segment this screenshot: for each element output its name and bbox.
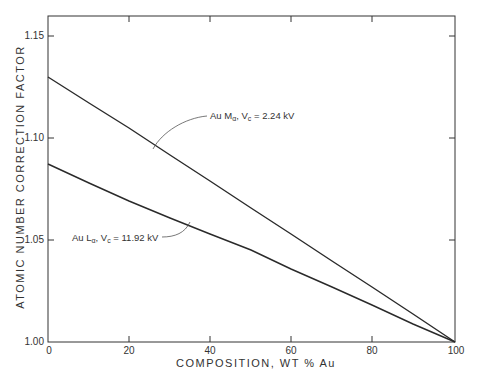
x-ticks xyxy=(129,16,372,342)
y-tick-label: 1.10 xyxy=(25,132,45,143)
annotation-leader-m xyxy=(153,116,207,149)
y-tick-label: 1.05 xyxy=(25,234,45,245)
x-tick-label: 0 xyxy=(46,345,52,356)
annotation-au-m-alpha: Au Mα, Vc = 2.24 kV xyxy=(210,110,295,122)
plot-frame xyxy=(48,16,455,342)
chart-canvas: 1.00 1.05 1.10 1.15 0 20 40 60 80 100 CO… xyxy=(0,0,477,377)
y-ticks xyxy=(48,36,455,240)
annotation-au-l-alpha: Au Lα, Vc = 11.92 kV xyxy=(72,232,159,244)
x-tick-label: 20 xyxy=(123,345,135,356)
y-axis-title: ATOMIC NUMBER CORRECTION FACTOR xyxy=(14,45,26,308)
x-tick-label: 100 xyxy=(448,345,465,356)
y-tick-label: 1.15 xyxy=(25,30,45,41)
series-au-l-alpha-line xyxy=(48,164,455,342)
x-tick-label: 80 xyxy=(366,345,378,356)
x-tick-label: 40 xyxy=(204,345,216,356)
y-tick-label: 1.00 xyxy=(25,336,45,347)
x-tick-label: 60 xyxy=(285,345,297,356)
x-axis-title: COMPOSITION, WT % Au xyxy=(176,357,336,369)
